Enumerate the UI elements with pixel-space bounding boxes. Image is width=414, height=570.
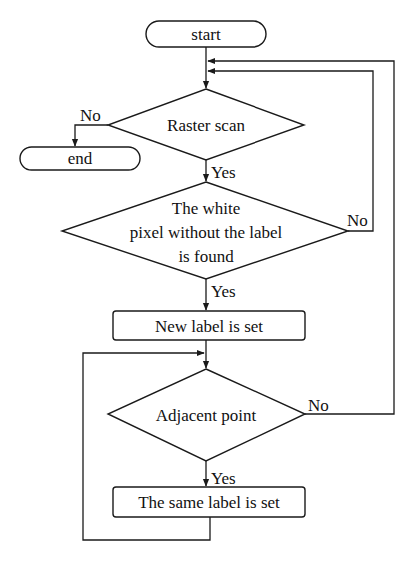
start-terminal: start: [146, 21, 266, 47]
new-label-process: New label is set: [113, 311, 305, 340]
new-label-text: New label is set: [155, 317, 263, 336]
edge-label-white-no: No: [347, 211, 368, 230]
white-pixel-label-line1: The white: [172, 199, 240, 218]
white-pixel-label-line3: is found: [178, 247, 234, 266]
adjacent-point-label: Adjacent point: [156, 406, 257, 425]
raster-scan-label: Raster scan: [167, 116, 245, 135]
same-label-process: The same label is set: [113, 487, 305, 517]
edge-label-raster-yes: Yes: [211, 163, 236, 182]
edge-label-adjacent-no: No: [308, 396, 329, 415]
edge-label-adjacent-yes: Yes: [211, 469, 236, 488]
edge-label-raster-no: No: [80, 106, 101, 125]
white-pixel-decision: The white pixel without the label is fou…: [62, 182, 348, 279]
flowchart: start Raster scan end The white pixel wi…: [0, 0, 414, 570]
end-terminal: end: [20, 147, 140, 170]
edge-label-white-yes: Yes: [211, 282, 236, 301]
start-label: start: [191, 25, 221, 44]
same-label-text: The same label is set: [138, 493, 280, 512]
end-label: end: [68, 149, 93, 168]
adjacent-point-decision: Adjacent point: [108, 369, 305, 461]
white-pixel-label-line2: pixel without the label: [130, 223, 283, 242]
raster-scan-decision: Raster scan: [108, 89, 304, 160]
edge-raster-no-to-end: [75, 125, 108, 146]
